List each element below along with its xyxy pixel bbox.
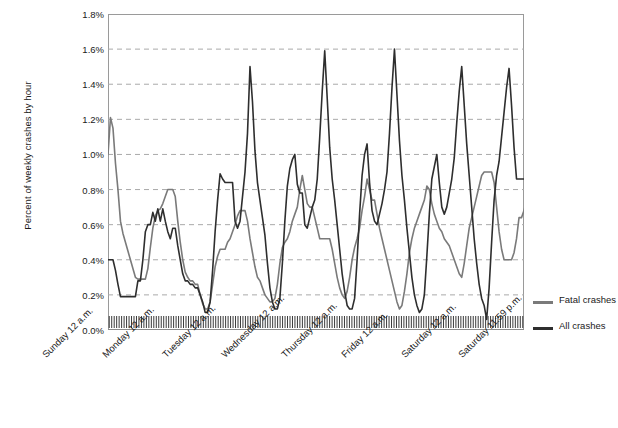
x-axis-tick-label: Saturday 12 a.m. [399,301,458,360]
legend-swatch [533,301,553,304]
x-axis-tick-label: Tuesday 12 a.m. [160,302,218,360]
chart-root: Percent of weekly crashes by hour 0.0%0.… [0,0,618,428]
x-axis-tick-label: Monday 12 a.m. [100,304,156,360]
legend-swatch [533,327,553,330]
x-axis-tick-labels: Sunday 12 a.m.Monday 12 a.m.Tuesday 12 a… [0,0,618,428]
legend-item: Fatal crashes [533,293,617,319]
chart-legend: Fatal crashesAll crashes [533,293,617,345]
x-axis-tick-label: Sunday 12 a.m. [40,305,95,360]
x-axis-tick-label: Friday 12 a.m. [339,309,390,360]
x-axis-tick-label: Wednesday 12 a.m. [219,292,286,359]
x-axis-tick-label: Thursday 12 a.m. [279,300,339,360]
legend-item: All crashes [533,319,617,345]
x-axis-tick-label: Saturday 11:59 p.m. [456,292,524,360]
legend-label: Fatal crashes [559,294,616,305]
legend-label: All crashes [559,320,605,331]
